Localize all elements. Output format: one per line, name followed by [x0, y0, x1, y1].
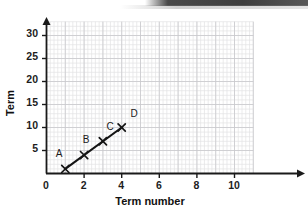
point-label-a: A [56, 148, 63, 159]
data-series-layer [62, 124, 126, 173]
point-label-d: D [130, 108, 137, 119]
y-tick-label-20: 20 [26, 73, 38, 85]
chart-page: 0 2 4 6 8 10 5 10 15 20 25 30 Term numbe… [0, 0, 308, 209]
x-tick-label-6: 6 [156, 179, 162, 191]
x-tick-label-4: 4 [118, 179, 124, 191]
y-tick-label-30: 30 [26, 27, 38, 39]
y-axis-title: Term [4, 90, 16, 116]
y-tick-label-10: 10 [26, 119, 38, 131]
x-tick-label-10: 10 [228, 179, 240, 191]
term-number-scatter-chart: 0 2 4 6 8 10 5 10 15 20 25 30 Term numbe… [0, 0, 308, 209]
x-tick-label-0: 0 [43, 179, 49, 191]
y-tick-label-25: 25 [26, 50, 38, 62]
x-tick-label-8: 8 [193, 179, 199, 191]
plot-area: 0 2 4 6 8 10 5 10 15 20 25 30 Term numbe… [0, 0, 308, 209]
x-tick-label-2: 2 [81, 179, 87, 191]
x-axis-title: Term number [115, 195, 185, 207]
point-label-b: B [83, 134, 90, 145]
point-label-c: C [106, 121, 113, 132]
y-tick-label-5: 5 [32, 142, 38, 154]
y-tick-label-15: 15 [26, 96, 38, 108]
